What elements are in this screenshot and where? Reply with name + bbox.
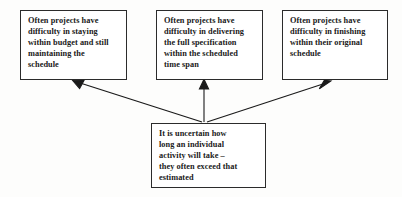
effect-box-budget-line-3: within budget and still [28, 38, 120, 49]
effect-box-budget-line-4: maintaining the [28, 49, 120, 60]
effect-box-finishing-line-1: Often projects have [290, 16, 381, 27]
effect-box-specification[interactable]: Often projects have difficulty in delive… [156, 10, 263, 80]
diagram-canvas: Often projects have difficulty in stayin… [0, 0, 402, 197]
cause-box-line-2: long an individual [159, 140, 259, 151]
connector-cause-to-finishing [207, 80, 331, 122]
connector-cause-to-specification [199, 79, 208, 122]
cause-box-uncertainty[interactable]: It is uncertain how long an individual a… [151, 123, 266, 188]
effect-box-specification-line-4: within the scheduled [164, 49, 256, 60]
effect-box-budget-line-1: Often projects have [28, 16, 120, 27]
effect-box-finishing-line-3: within their original [290, 38, 381, 49]
effect-box-specification-line-3: the full specification [164, 38, 256, 49]
effect-box-finishing-line-4: schedule [290, 49, 381, 60]
effect-box-budget-line-2: difficulty in staying [28, 27, 120, 38]
cause-box-line-1: It is uncertain how [159, 129, 259, 140]
effect-box-budget[interactable]: Often projects have difficulty in stayin… [20, 10, 127, 80]
effect-box-finishing[interactable]: Often projects have difficulty in finish… [282, 10, 388, 80]
effect-box-finishing-line-2: difficulty in finishing [290, 27, 381, 38]
cause-box-line-4: they often exceed that [159, 162, 259, 173]
cause-box-line-3: activity will take – [159, 151, 259, 162]
effect-box-specification-line-1: Often projects have [164, 16, 256, 27]
effect-box-budget-line-5: schedule [28, 60, 120, 71]
effect-box-specification-line-2: difficulty in delivering [164, 27, 256, 38]
effect-box-specification-line-5: time span [164, 60, 256, 71]
cause-box-line-5: estimated [159, 173, 259, 184]
connector-cause-to-budget [73, 80, 203, 122]
